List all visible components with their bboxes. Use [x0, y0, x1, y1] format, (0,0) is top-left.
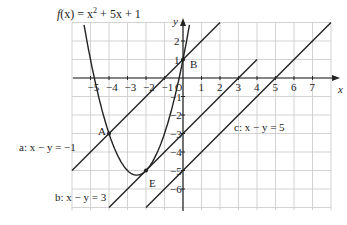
line-a-label: a: x − y = −1	[19, 141, 76, 153]
x-tick-label: 7	[310, 81, 316, 93]
function-title: f(x) = x2 + 5x + 1	[57, 6, 141, 21]
x-arrow-icon	[332, 75, 340, 81]
graph: −5−4−3−2−1123456721−1−2−3−4−5−6 x y O B …	[0, 0, 347, 225]
x-tick-label: 3	[236, 81, 242, 93]
x-tick-label: −4	[106, 81, 118, 93]
x-tick-label: 4	[254, 81, 260, 93]
x-tick-label: 2	[217, 81, 223, 93]
point-b-dot	[181, 58, 185, 62]
y-tick-label: −5	[170, 165, 182, 177]
x-tick-label: 1	[199, 81, 205, 93]
x-tick-label: 5	[273, 81, 279, 93]
point-a-dot	[107, 132, 111, 136]
point-a-label: A	[98, 125, 106, 137]
y-tick-label: 2	[174, 35, 180, 47]
point-e-label: E	[149, 177, 156, 189]
y-axis-label: y	[172, 15, 178, 27]
y-tick-label: −3	[170, 128, 182, 140]
x-tick-label: −3	[125, 81, 137, 93]
x-tick-label: 6	[291, 81, 297, 93]
y-tick-label: −6	[170, 183, 182, 195]
origin-label: O	[175, 82, 182, 93]
point-b-label: B	[190, 58, 197, 70]
x-axis-label: x	[337, 83, 343, 95]
x-tick-label: −2	[143, 81, 155, 93]
grid	[72, 23, 331, 211]
y-tick-label: −4	[170, 146, 182, 158]
y-arrow-icon	[180, 18, 186, 26]
line-b-label: b: x − y = 3	[55, 191, 107, 203]
point-e-dot	[144, 169, 148, 173]
line-c-label: c: x − y = 5	[234, 121, 285, 133]
